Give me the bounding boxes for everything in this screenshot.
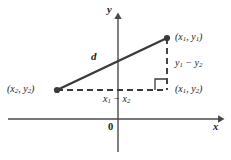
paren-close-3: ): [199, 83, 202, 94]
hleg-minus: −: [113, 93, 120, 104]
point-label-p2: (x2, y2): [7, 84, 34, 95]
hleg-sub-2: 2: [127, 97, 130, 104]
vleg-sub-2: 2: [199, 61, 202, 68]
vleg-sub-1: 1: [179, 61, 182, 68]
comma-3: ,: [186, 83, 189, 94]
vertical-leg-label: y1 − y2: [175, 58, 202, 69]
hypotenuse-label-d: d: [91, 51, 97, 62]
horizontal-leg-label: x1 − x2: [103, 94, 130, 105]
x-axis-arrowhead: [218, 115, 225, 123]
right-angle-marker: [155, 79, 166, 90]
hypotenuse-line: [57, 38, 167, 90]
comma-2: ,: [18, 83, 21, 94]
y-axis-label: y: [107, 5, 112, 16]
point-dot-p1: [164, 35, 170, 41]
point-dot-p2: [54, 87, 60, 93]
origin-label: 0: [108, 122, 113, 133]
distance-formula-figure: y x 0 (x1, y1) (x2, y2) (x1, y2) d y1 − …: [0, 0, 231, 160]
vleg-minus: −: [185, 57, 192, 68]
point-label-p3: (x1, y2): [175, 84, 202, 95]
paren-close: ): [199, 31, 202, 42]
x-axis-label: x: [213, 122, 218, 133]
comma-1: ,: [186, 31, 189, 42]
paren-close-2: ): [31, 83, 34, 94]
figure-canvas: [0, 0, 231, 160]
point-label-p1: (x1, y1): [175, 32, 202, 43]
y-axis-arrowhead: [114, 13, 121, 20]
hleg-sub-1: 1: [107, 97, 110, 104]
